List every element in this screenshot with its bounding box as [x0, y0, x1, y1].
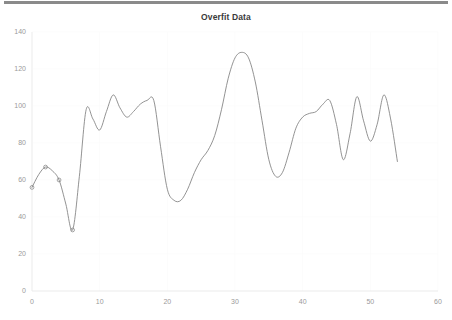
x-tick-40: 40	[291, 298, 315, 305]
y-tick-40: 40	[2, 213, 26, 220]
x-tick-10: 10	[88, 298, 112, 305]
x-tick-0: 0	[20, 298, 44, 305]
gridlines-group	[32, 32, 438, 291]
y-tick-20: 20	[2, 250, 26, 257]
y-tick-100: 100	[2, 102, 26, 109]
x-tick-50: 50	[358, 298, 382, 305]
y-tick-80: 80	[2, 139, 26, 146]
y-tick-60: 60	[2, 176, 26, 183]
data-series-line	[32, 52, 397, 230]
y-tick-0: 0	[2, 287, 26, 294]
chart-container: Overfit Data 140120100806040200 01020304…	[0, 0, 452, 320]
x-tick-60: 60	[426, 298, 450, 305]
x-tick-20: 20	[155, 298, 179, 305]
y-tick-140: 140	[2, 28, 26, 35]
x-tick-30: 30	[223, 298, 247, 305]
y-tick-120: 120	[2, 65, 26, 72]
line-chart-plot	[0, 0, 452, 320]
data-point-markers	[30, 165, 74, 232]
